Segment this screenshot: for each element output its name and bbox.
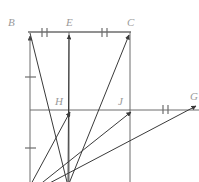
point-label-g: G [190, 91, 198, 102]
point-label-b: B [8, 17, 15, 28]
axes-group [25, 36, 199, 182]
figure-canvas [0, 0, 199, 182]
ray-center-to-h [30, 33, 68, 182]
point-label-j: J [118, 96, 123, 107]
point-label-c: C [127, 17, 134, 28]
point-label-h: H [55, 96, 63, 107]
dilation-rays [30, 33, 196, 182]
ray-center-to-c [68, 35, 129, 182]
geometry-figure: B E C H J G [0, 0, 199, 182]
point-label-e: E [66, 17, 73, 28]
